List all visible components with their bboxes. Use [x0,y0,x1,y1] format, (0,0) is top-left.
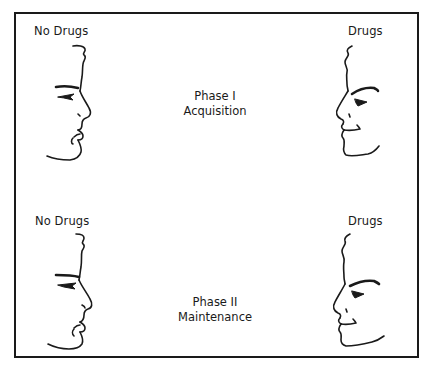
phase1-title: Phase I Acquisition [155,89,275,119]
phase1-drugs-label: Drugs [348,24,383,38]
face-profile-no-drugs-icon [40,42,100,167]
face-profile-drugs-icon [332,42,392,167]
phase1-no-drugs-label: No Drugs [34,24,88,38]
phase2-no-drugs-label: No Drugs [35,214,89,228]
phase2-title: Phase II Maintenance [155,295,275,325]
phase2-title-line2: Maintenance [155,310,275,325]
phase2-drugs-label: Drugs [348,214,383,228]
face-profile-no-drugs-icon [42,232,102,357]
phase1-title-line2: Acquisition [155,104,275,119]
phase2-title-line1: Phase II [155,295,275,310]
phase1-title-line1: Phase I [155,89,275,104]
face-profile-drugs-icon [330,232,395,357]
